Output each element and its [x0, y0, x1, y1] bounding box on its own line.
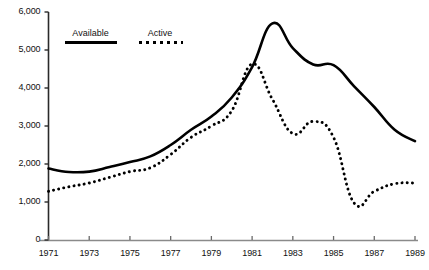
y-tick-label: 3,000 — [0, 120, 41, 130]
legend-label-active: Active — [137, 28, 183, 38]
legend-swatch-solid-line — [65, 41, 117, 48]
chart-legend: Available Active — [64, 28, 194, 54]
legend-label-available: Available — [64, 28, 117, 38]
x-tick-label: 1973 — [67, 248, 111, 258]
y-tick-label: 4,000 — [0, 82, 41, 92]
y-tick-label: 5,000 — [0, 44, 41, 54]
x-tick-label: 1987 — [352, 248, 396, 258]
x-tick-label: 1985 — [312, 248, 356, 258]
y-tick-label: 2,000 — [0, 158, 41, 168]
y-tick-label: 1,000 — [0, 196, 41, 206]
x-tick-label: 1989 — [393, 248, 429, 258]
x-tick-label: 1971 — [27, 248, 71, 258]
y-tick-label: 0 — [0, 234, 41, 244]
x-tick-label: 1979 — [189, 248, 233, 258]
x-axis-ticks — [49, 236, 416, 240]
series-line-active — [49, 64, 416, 207]
x-tick-label: 1977 — [149, 248, 193, 258]
x-tick-label: 1981 — [230, 248, 274, 258]
x-tick-label: 1975 — [108, 248, 152, 258]
legend-item-active: Active — [137, 28, 183, 44]
x-tick-label: 1983 — [271, 248, 315, 258]
chart-container: Available Active 01,0002,0003,0004,0005,… — [0, 0, 429, 270]
legend-swatch-dotted-line — [139, 41, 183, 44]
legend-item-available: Available — [64, 28, 117, 48]
y-tick-label: 6,000 — [0, 6, 41, 16]
